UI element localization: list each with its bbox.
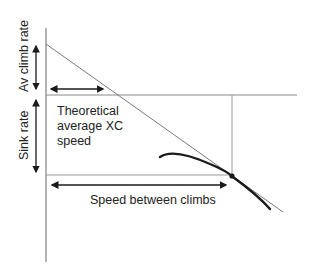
speed-between-climbs-label: Speed between climbs (90, 193, 216, 208)
climb-rate-label: Av climb rate (17, 20, 31, 92)
xc-speed-label-line1: Theoretical (57, 104, 119, 119)
xc-speed-label-line3: speed (57, 134, 91, 149)
speed-to-fly-diagram (0, 0, 310, 280)
xc-speed-label-line2: average XC (57, 119, 123, 134)
sink-rate-label: Sink rate (17, 111, 31, 160)
tangent-point (229, 173, 234, 178)
